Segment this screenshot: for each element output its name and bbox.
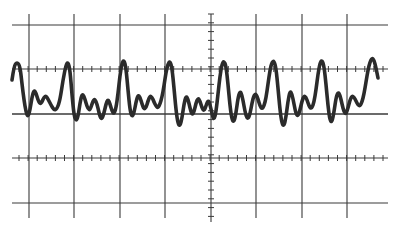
oscilloscope-display (0, 0, 400, 234)
display-background (0, 0, 400, 234)
